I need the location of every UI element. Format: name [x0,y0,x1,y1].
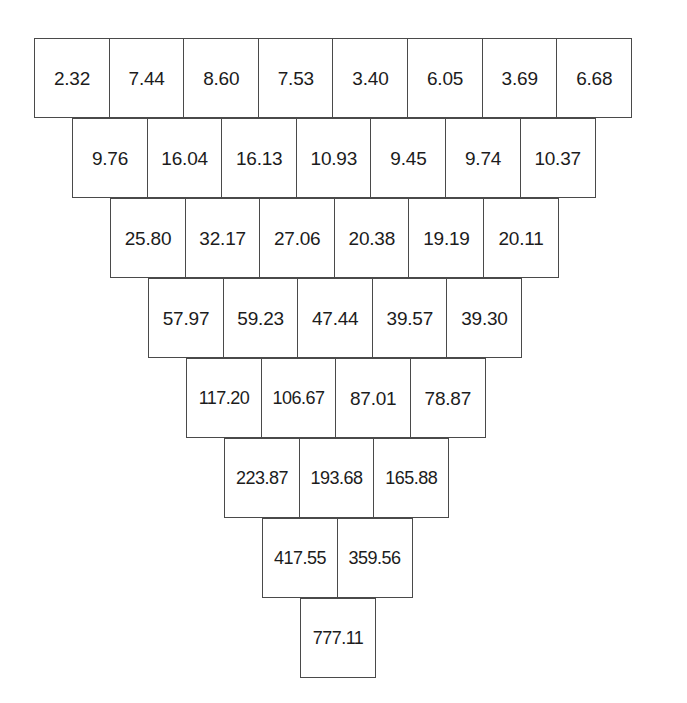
pyramid-cell: 57.97 [148,278,224,358]
pyramid-cell: 8.60 [183,38,259,118]
pyramid-row-8: 777.11 [300,598,375,678]
pyramid-cell: 2.32 [34,38,110,118]
pyramid-cell: 39.57 [372,278,448,358]
pyramid-row-1: 2.327.448.607.533.406.053.696.68 [34,38,631,118]
pyramid-row-2: 9.7616.0416.1310.939.459.7410.37 [72,118,594,198]
pyramid-cell: 417.55 [262,518,338,598]
pyramid-cell: 39.30 [446,278,522,358]
pyramid-row-5: 117.20106.6787.0178.87 [186,358,484,438]
pyramid-cell: 117.20 [186,358,262,438]
pyramid-cell: 9.76 [72,118,148,198]
pyramid-cell: 9.45 [370,118,446,198]
pyramid-row-3: 25.8032.1727.0620.3819.1920.11 [110,198,558,278]
pyramid-cell: 32.17 [185,198,261,278]
pyramid-cell: 359.56 [337,518,413,598]
pyramid-cell: 193.68 [299,438,375,518]
pyramid-cell: 3.40 [332,38,408,118]
sum-pyramid-diagram: 2.327.448.607.533.406.053.696.689.7616.0… [0,0,687,703]
pyramid-cell: 3.69 [482,38,558,118]
pyramid-cell: 20.11 [483,198,559,278]
pyramid-cell: 27.06 [259,198,335,278]
pyramid-cell: 9.74 [445,118,521,198]
pyramid-cell: 16.13 [221,118,297,198]
pyramid-cell: 223.87 [224,438,300,518]
pyramid-cell: 19.19 [408,198,484,278]
pyramid-cell: 87.01 [335,358,411,438]
pyramid-cell: 78.87 [410,358,486,438]
pyramid-cell: 16.04 [147,118,223,198]
pyramid-cell: 59.23 [223,278,299,358]
pyramid-cell: 47.44 [297,278,373,358]
pyramid-cell: 7.44 [109,38,185,118]
pyramid-cell: 20.38 [334,198,410,278]
pyramid-cell: 7.53 [258,38,334,118]
pyramid-row-6: 223.87193.68165.88 [224,438,448,518]
pyramid-row-7: 417.55359.56 [262,518,411,598]
pyramid-row-4: 57.9759.2347.4439.5739.30 [148,278,521,358]
pyramid-cell: 106.67 [261,358,337,438]
pyramid-cell: 25.80 [110,198,186,278]
pyramid-cell: 777.11 [300,598,376,678]
pyramid-cell: 6.05 [407,38,483,118]
pyramid-cell: 10.37 [520,118,596,198]
pyramid-cell: 10.93 [296,118,372,198]
pyramid-cell: 6.68 [556,38,632,118]
pyramid-cell: 165.88 [373,438,449,518]
